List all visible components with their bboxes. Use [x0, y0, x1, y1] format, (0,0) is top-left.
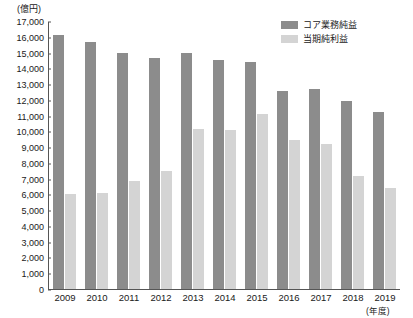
y-axis-tick-label: 16,000	[2, 33, 48, 42]
bar-net-2010	[97, 193, 108, 289]
y-axis-tick-text: 7,000	[21, 175, 48, 184]
bar-core-2011	[117, 53, 128, 289]
bar-net-2016	[289, 140, 300, 289]
y-axis-tick-label: 4,000	[2, 222, 48, 231]
y-axis-tick-label: 12,000	[2, 96, 48, 105]
y-axis-tick-text: 0	[39, 286, 48, 295]
y-axis-tick-text: 10,000	[16, 128, 48, 137]
y-axis-tick-text: 3,000	[21, 238, 48, 247]
bar-net-2014	[225, 130, 236, 289]
y-axis-tick-label: 7,000	[2, 175, 48, 184]
x-axis-tick-label: 2019	[369, 292, 401, 303]
bar-core-2017	[309, 89, 320, 289]
y-axis-tick-text: 6,000	[21, 191, 48, 200]
bar-net-2015	[257, 114, 268, 289]
y-axis-tick-text: 2,000	[21, 254, 48, 263]
bar-core-2012	[149, 58, 160, 289]
y-axis-tick-label: 2,000	[2, 254, 48, 263]
y-axis-tick-label: 3,000	[2, 238, 48, 247]
x-axis-tick-label: 2017	[305, 292, 337, 303]
y-axis-tick-mark	[48, 290, 51, 291]
x-axis-tick-label: 2009	[49, 292, 81, 303]
bar-net-2009	[65, 194, 76, 289]
bar-net-2019	[385, 188, 396, 289]
y-axis-tick-label: 14,000	[2, 65, 48, 74]
x-axis-tick-label: 2013	[177, 292, 209, 303]
bar-net-2013	[193, 129, 204, 289]
y-axis-tick-label: 6,000	[2, 191, 48, 200]
y-axis-tick-text: 4,000	[21, 222, 48, 231]
x-axis-tick-label: 2018	[337, 292, 369, 303]
x-axis-labels: 2009201020112012201320142015201620172018…	[49, 292, 401, 303]
bar-net-2012	[161, 171, 172, 289]
y-axis-tick-label: 11,000	[2, 112, 48, 121]
bar-group	[177, 22, 209, 289]
y-axis-tick-text: 9,000	[21, 144, 48, 153]
x-axis-tick-label: 2011	[113, 292, 145, 303]
y-axis-tick-label: 9,000	[2, 144, 48, 153]
bar-core-2016	[277, 91, 288, 289]
y-axis-tick-text: 13,000	[16, 81, 48, 90]
x-axis-line	[48, 289, 400, 290]
y-axis-tick-text: 14,000	[16, 65, 48, 74]
y-axis-tick-label: 8,000	[2, 159, 48, 168]
y-axis-tick-text: 5,000	[21, 207, 48, 216]
y-axis-tick-text: 12,000	[16, 96, 48, 105]
x-axis-tick-label: 2015	[241, 292, 273, 303]
bar-group	[240, 22, 272, 289]
bar-chart: (億円) コア業務純益 当期純利益 17,00016,00015,00014,0…	[0, 0, 413, 318]
bar-core-2018	[341, 101, 352, 289]
bars-layer	[49, 22, 400, 289]
y-axis-tick-label: 1,000	[2, 270, 48, 279]
x-axis-tick-label: 2012	[145, 292, 177, 303]
y-axis-tick-label: 13,000	[2, 81, 48, 90]
y-axis-tick-label: 17,000	[2, 18, 48, 27]
x-axis-tick-label: 2014	[209, 292, 241, 303]
bar-group	[272, 22, 304, 289]
y-axis-tick-label: 10,000	[2, 128, 48, 137]
bar-group	[209, 22, 241, 289]
y-axis-tick-label: 0	[2, 286, 48, 295]
bar-core-2015	[245, 62, 256, 289]
bar-group	[336, 22, 368, 289]
y-axis-tick-text: 17,000	[16, 18, 48, 27]
y-axis-tick-text: 16,000	[16, 33, 48, 42]
y-axis-tick-text: 11,000	[17, 112, 48, 121]
y-axis-tick-label: 15,000	[2, 49, 48, 58]
y-axis-tick-text: 8,000	[21, 159, 48, 168]
bar-net-2017	[321, 144, 332, 289]
bar-core-2014	[213, 60, 224, 289]
bar-core-2013	[181, 53, 192, 289]
bar-core-2009	[53, 35, 64, 289]
y-axis-unit-label: (億円)	[17, 2, 41, 15]
bar-core-2019	[373, 112, 384, 289]
bar-net-2018	[353, 176, 364, 289]
y-axis-tick-label: 5,000	[2, 207, 48, 216]
bar-core-2010	[85, 42, 96, 289]
x-axis-tick-label: 2010	[81, 292, 113, 303]
bar-group	[81, 22, 113, 289]
bar-group	[49, 22, 81, 289]
bar-group	[304, 22, 336, 289]
x-axis-tick-label: 2016	[273, 292, 305, 303]
plot-area: 17,00016,00015,00014,00013,00012,00011,0…	[48, 22, 400, 290]
y-axis-tick-text: 1,000	[21, 270, 48, 279]
bar-group	[145, 22, 177, 289]
bar-net-2011	[129, 181, 140, 289]
bar-group	[368, 22, 400, 289]
x-axis-title: (年度)	[366, 304, 390, 316]
bar-group	[113, 22, 145, 289]
y-axis-tick-text: 15,000	[16, 49, 48, 58]
